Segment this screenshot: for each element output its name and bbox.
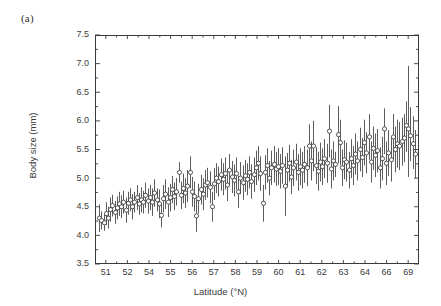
data-point-marker xyxy=(219,173,223,177)
data-point-marker xyxy=(358,147,362,151)
data-point-marker xyxy=(362,141,366,145)
data-point-marker xyxy=(316,169,320,173)
data-point-marker xyxy=(141,200,145,204)
data-point-marker xyxy=(223,171,227,175)
x-tick-label: 59 xyxy=(252,267,262,277)
y-tick-label: 4.5 xyxy=(76,201,89,211)
data-point-marker xyxy=(157,202,161,206)
data-point-marker xyxy=(367,135,371,139)
data-point-marker xyxy=(155,198,159,202)
data-point-marker xyxy=(172,194,176,198)
data-point-marker xyxy=(353,152,357,156)
data-point-marker xyxy=(177,170,181,174)
data-point-marker xyxy=(174,190,178,194)
data-point-marker xyxy=(338,141,342,145)
data-point-marker xyxy=(289,175,293,179)
data-point-marker xyxy=(119,205,123,209)
data-point-marker xyxy=(369,160,373,164)
plot-frame xyxy=(96,36,419,264)
x-axis-tick-labels: 515254555657585960616263646669 xyxy=(101,267,413,277)
scatter-plot-body-size-vs-latitude: 3.54.04.55.05.56.06.57.07.5 515254555657… xyxy=(0,0,441,306)
data-point-marker xyxy=(163,192,167,196)
data-point-marker xyxy=(168,195,172,199)
data-point-marker xyxy=(309,159,313,163)
data-point-marker xyxy=(252,173,256,177)
data-point-marker xyxy=(378,166,382,170)
data-point-marker xyxy=(391,135,395,139)
y-tick-label: 7.0 xyxy=(76,58,89,68)
data-point-marker xyxy=(143,193,147,197)
data-point-marker xyxy=(106,216,110,220)
data-point-marker xyxy=(192,194,196,198)
x-tick-label: 54 xyxy=(144,267,154,277)
data-point-marker xyxy=(201,192,205,196)
data-point-marker xyxy=(261,201,265,205)
data-point-marker xyxy=(327,129,331,133)
data-point-marker xyxy=(179,193,183,197)
data-point-marker xyxy=(194,214,198,218)
data-point-marker xyxy=(234,171,238,175)
data-point-marker xyxy=(360,155,364,159)
data-point-marker xyxy=(272,162,276,166)
data-point-marker xyxy=(333,162,337,166)
data-point-marker xyxy=(238,176,242,180)
data-point-marker xyxy=(110,204,114,208)
data-point-marker xyxy=(104,212,108,216)
data-point-marker xyxy=(205,181,209,185)
data-point-marker xyxy=(227,168,231,172)
data-point-marker xyxy=(254,166,258,170)
y-axis-tick-labels: 3.54.04.55.05.56.06.57.07.5 xyxy=(76,29,89,268)
data-point-marker xyxy=(115,206,119,210)
data-point-marker xyxy=(285,168,289,172)
data-point-marker xyxy=(183,191,187,195)
data-point-marker xyxy=(148,195,152,199)
data-point-marker xyxy=(386,151,390,155)
data-point-marker xyxy=(216,179,220,183)
data-point-marker xyxy=(344,160,348,164)
x-tick-label: 63 xyxy=(338,267,348,277)
data-point-marker xyxy=(225,183,229,187)
data-point-marker xyxy=(305,166,309,170)
data-point-marker xyxy=(256,161,260,165)
data-point-marker xyxy=(291,166,295,170)
data-point-marker xyxy=(152,191,156,195)
data-point-marker xyxy=(408,134,412,138)
data-point-marker xyxy=(196,197,200,201)
data-point-marker xyxy=(373,153,377,157)
data-point-marker xyxy=(135,195,139,199)
y-tick-label: 6.0 xyxy=(76,115,89,125)
data-point-marker xyxy=(159,213,163,217)
data-point-marker xyxy=(413,152,417,156)
data-point-marker xyxy=(393,147,397,151)
data-point-marker xyxy=(294,160,298,164)
data-point-marker xyxy=(349,157,353,161)
data-point-marker xyxy=(161,197,165,201)
y-tick-label: 4.0 xyxy=(76,230,89,240)
data-point-marker xyxy=(283,184,287,188)
data-point-marker xyxy=(351,163,355,167)
data-point-marker xyxy=(150,200,154,204)
data-errorbars xyxy=(97,66,417,232)
data-point-marker xyxy=(278,169,282,173)
x-tick-label: 51 xyxy=(101,267,111,277)
data-point-marker xyxy=(406,127,410,131)
data-point-marker xyxy=(314,163,318,167)
data-point-marker xyxy=(236,190,240,194)
data-point-marker xyxy=(263,170,267,174)
data-point-marker xyxy=(364,151,368,155)
data-point-marker xyxy=(210,205,214,209)
data-point-marker xyxy=(389,158,393,162)
y-tick-label: 6.5 xyxy=(76,87,89,97)
data-point-marker xyxy=(384,161,388,165)
data-point-marker xyxy=(130,205,134,209)
data-point-marker xyxy=(307,144,311,148)
data-point-marker xyxy=(276,165,280,169)
x-tick-label: 64 xyxy=(360,267,370,277)
data-point-marker xyxy=(397,144,401,148)
data-point-marker xyxy=(190,190,194,194)
y-axis-ticks xyxy=(95,35,419,264)
data-point-marker xyxy=(199,187,203,191)
data-point-marker xyxy=(325,161,329,165)
x-tick-label: 69 xyxy=(403,267,413,277)
data-point-marker xyxy=(280,163,284,167)
